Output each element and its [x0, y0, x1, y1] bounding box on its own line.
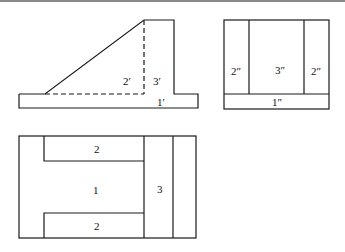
front-label-3: 3′	[153, 75, 161, 87]
top-label-1: 1	[93, 184, 99, 196]
top-view-outline	[19, 136, 196, 238]
top-label-2-lower: 2	[94, 220, 100, 232]
side-label-2-right: 2″	[311, 65, 321, 77]
front-view-outline	[19, 20, 198, 108]
front-label-2: 2′	[123, 75, 131, 87]
side-label-3: 3″	[275, 64, 285, 76]
top-label-3: 3	[157, 183, 163, 195]
side-label-2-left: 2″	[231, 65, 241, 77]
side-label-1: 1″	[272, 96, 282, 108]
top-view	[19, 136, 196, 238]
orthographic-drawing: 2′ 3′ 1′ 2″ 3″ 2″ 1″ 2 1 2 3	[0, 0, 345, 252]
front-view	[19, 20, 198, 108]
front-label-1: 1′	[157, 96, 165, 108]
top-label-2-upper: 2	[94, 143, 100, 155]
